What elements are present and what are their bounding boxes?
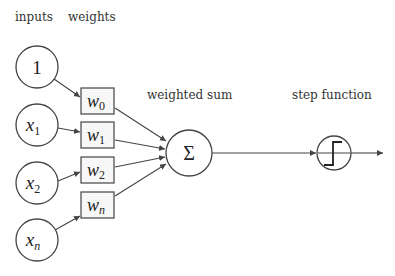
input-node-x1: x1 — [16, 104, 58, 146]
inputs-label: inputs — [15, 10, 53, 24]
edge-weightn-sum — [115, 164, 166, 196]
step-function-node — [317, 136, 351, 170]
input-node-xn: xn — [16, 219, 58, 261]
edge-input1-weight1 — [58, 128, 80, 132]
weighted-sum-node: Σ — [166, 130, 212, 176]
edge-weight2-sum — [115, 157, 165, 167]
perceptron-diagram: inputs weights weighted sum step functio… — [0, 0, 395, 276]
weight-box-w1: w1 — [81, 122, 114, 148]
edge-input0-weight0 — [54, 79, 80, 97]
weight-box-w0: w0 — [81, 88, 114, 114]
edge-input2-weight2 — [58, 172, 80, 181]
weighted-sum-label: weighted sum — [147, 88, 233, 102]
step-function-label: step function — [292, 88, 372, 102]
svg-text:1: 1 — [32, 57, 42, 78]
edge-weight0-sum — [115, 108, 166, 141]
sigma-icon: Σ — [183, 142, 195, 164]
edge-weight1-sum — [115, 140, 165, 149]
input-node-1: 1 — [16, 46, 58, 88]
edge-inputn-weightn — [55, 216, 80, 230]
weight-box-wn: wn — [81, 192, 114, 218]
weights-label: weights — [68, 10, 116, 24]
weight-box-w2: w2 — [81, 157, 114, 183]
input-node-x2: x2 — [16, 162, 58, 204]
